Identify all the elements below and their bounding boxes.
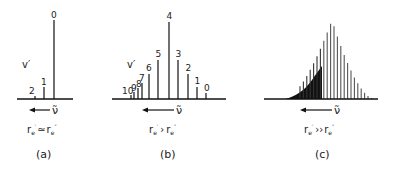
peak-label: 8 [136, 79, 142, 89]
wavenumber-arrow-a [29, 108, 50, 113]
vprime-label-b: v′ [127, 59, 136, 70]
peak-label: 5 [156, 49, 162, 59]
wavenumber-arrow-b [142, 108, 174, 113]
caption-a: (a) [36, 148, 51, 161]
condition-c: re′››re″ [304, 123, 335, 136]
wavenumber-symbol-c: ν̃ [334, 104, 340, 117]
peak-label: 1 [195, 76, 201, 86]
panel-b: 012345678910 v′ ν̃ re′›re″ (b) [112, 11, 226, 161]
panel-c: ν̃ re′››re″ (c) [264, 24, 378, 161]
peaks-a: 012 [29, 10, 57, 99]
peak-label: 2 [186, 63, 192, 73]
caption-b: (b) [160, 148, 176, 161]
panel-a: 012 v′ ν̃ re′≃re″ (a) [17, 10, 73, 161]
peak-label: 6 [146, 63, 152, 73]
wavenumber-arrow-c [300, 108, 332, 113]
peaks-c [300, 24, 371, 99]
caption-c: (c) [315, 148, 330, 161]
peak-label: 4 [167, 11, 173, 21]
wavenumber-symbol-a: ν̃ [52, 104, 58, 117]
vprime-label-a: v′ [22, 59, 31, 70]
condition-a: re′≃re″ [27, 123, 57, 136]
peak-label: 1 [41, 77, 47, 87]
peaks-b: 012345678910 [122, 11, 210, 99]
condition-b: re′›re″ [149, 123, 177, 136]
peak-label: 2 [29, 86, 35, 96]
peak-label: 10 [122, 86, 134, 96]
franck-condon-figure: 012 v′ ν̃ re′≃re″ (a) 012345678910 v′ ν̃… [0, 0, 394, 174]
peak-label: 3 [176, 49, 182, 59]
peak-label: 0 [51, 10, 57, 20]
wavenumber-symbol-b: ν̃ [176, 104, 182, 117]
peak-label: 0 [204, 83, 210, 93]
